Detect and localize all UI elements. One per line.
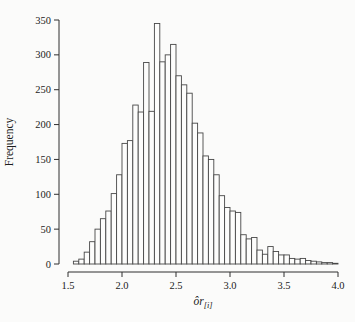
- histogram-bar: [133, 105, 138, 264]
- histogram-bar: [149, 111, 154, 264]
- histogram-bar: [300, 258, 305, 264]
- histogram-bar: [111, 194, 116, 264]
- histogram-figure: 050100150200250300350 1.52.02.53.03.54.0…: [0, 0, 355, 322]
- y-axis-title: Frequency: [3, 117, 16, 166]
- y-tick-label: 350: [35, 15, 51, 26]
- histogram-bar: [154, 23, 159, 264]
- histogram-bar: [73, 261, 78, 264]
- histogram-bar: [122, 143, 127, 264]
- histogram-bar: [187, 93, 192, 264]
- histogram-bar: [262, 254, 267, 264]
- histogram-bar: [273, 251, 278, 264]
- x-tick-label: 2.0: [115, 280, 128, 291]
- histogram-bar: [160, 62, 165, 264]
- x-tick-label: 4.0: [331, 280, 344, 291]
- histogram-bar: [327, 263, 332, 264]
- histogram-bar: [295, 259, 300, 264]
- x-tick-label: 2.5: [169, 280, 182, 291]
- histogram-bar: [90, 242, 95, 264]
- histogram-bar: [252, 238, 257, 264]
- histogram-bar: [144, 63, 149, 264]
- histogram-bar: [284, 255, 289, 264]
- histogram-bar: [235, 212, 240, 264]
- histogram-bar: [203, 156, 208, 264]
- x-axis-title: ôr[i]: [193, 295, 212, 310]
- histogram-bar: [165, 55, 170, 264]
- histogram-bar: [246, 239, 251, 264]
- histogram-bar: [306, 261, 311, 264]
- y-tick-label: 300: [35, 49, 51, 60]
- y-tick-label: 0: [46, 259, 51, 270]
- histogram-bar: [100, 219, 105, 264]
- histogram-bar: [176, 76, 181, 264]
- histogram-bar: [95, 229, 100, 264]
- x-tick-label: 1.5: [61, 280, 74, 291]
- histogram-bar: [208, 159, 213, 264]
- histogram-bar: [289, 258, 294, 264]
- histogram-bar: [214, 175, 219, 264]
- y-tick-label: 50: [41, 224, 52, 235]
- y-axis: 050100150200250300350: [35, 15, 59, 270]
- histogram-bar: [241, 235, 246, 264]
- histogram-bars: [73, 23, 338, 264]
- histogram-bar: [106, 211, 111, 264]
- histogram-bar: [138, 112, 143, 264]
- y-tick-label: 100: [35, 189, 51, 200]
- histogram-bar: [322, 263, 327, 264]
- x-tick-label: 3.5: [277, 280, 290, 291]
- histogram-bar: [311, 261, 316, 264]
- histogram-bar: [333, 263, 338, 264]
- histogram-bar: [181, 85, 186, 264]
- x-tick-label: 3.0: [223, 280, 236, 291]
- histogram-bar: [230, 211, 235, 264]
- histogram-bar: [219, 196, 224, 264]
- y-tick-label: 250: [35, 84, 51, 95]
- histogram-bar: [127, 141, 132, 264]
- histogram-bar: [225, 208, 230, 264]
- x-axis: 1.52.02.53.03.54.0: [61, 272, 344, 291]
- histogram-bar: [171, 44, 176, 264]
- histogram-bar: [79, 259, 84, 264]
- histogram-bar: [84, 252, 89, 264]
- histogram-canvas: 050100150200250300350 1.52.02.53.03.54.0…: [0, 0, 355, 322]
- histogram-bar: [316, 262, 321, 264]
- y-tick-label: 150: [35, 154, 51, 165]
- y-tick-label: 200: [35, 119, 51, 130]
- histogram-bar: [279, 255, 284, 264]
- histogram-bar: [198, 133, 203, 264]
- histogram-bar: [192, 123, 197, 264]
- histogram-bar: [117, 175, 122, 264]
- histogram-bar: [257, 250, 262, 264]
- histogram-bar: [268, 247, 273, 264]
